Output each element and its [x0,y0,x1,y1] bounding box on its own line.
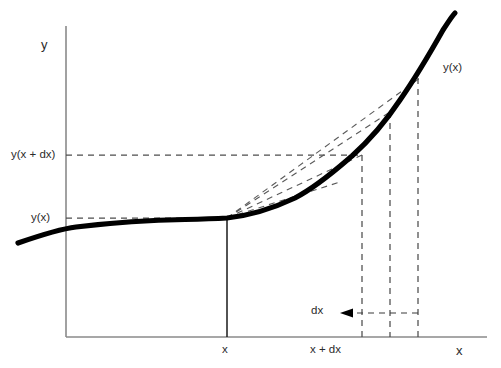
x-tick-label: x [222,344,228,356]
curve-label: y(x) [443,62,462,74]
x-axis-label: x [456,344,463,357]
dx-arrow-head-icon [340,309,353,318]
secant-line-2 [227,112,390,218]
secant-line-1 [227,78,420,218]
dx-label: dx [311,305,323,317]
x-plus-dx-tick-label: x + dx [310,344,341,356]
axes-group [66,26,487,337]
y-axis-label: y [41,38,48,51]
y-at-x-label: y(x) [31,212,50,224]
diagram-canvas [0,0,501,368]
derivative-diagram: y y(x + dx) y(x) y(x) dx x x + dx x [0,0,501,368]
secant-line-4 [227,182,340,218]
y-at-x-plus-dx-label: y(x + dx) [11,149,55,161]
secant-lines-group [227,78,420,218]
dx-arrow-group [340,309,418,318]
